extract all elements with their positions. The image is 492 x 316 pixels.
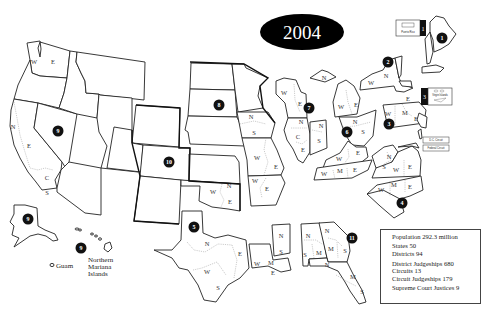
district-label: E bbox=[271, 269, 275, 276]
district-label: M bbox=[316, 249, 322, 256]
circuit-number: 10 bbox=[166, 159, 172, 165]
year-title-badge: 2004 bbox=[260, 14, 344, 50]
circuit-marker-3: 3 bbox=[384, 119, 395, 130]
state-wyoming bbox=[132, 105, 180, 147]
puerto-rico-label: Puerto Rico bbox=[401, 30, 415, 34]
district-label: M bbox=[337, 167, 343, 174]
district-label: E bbox=[408, 183, 412, 190]
state-wisconsin bbox=[276, 78, 307, 118]
district-label: S bbox=[252, 129, 256, 136]
district-label: W bbox=[336, 155, 343, 162]
district-label: N bbox=[319, 122, 324, 129]
virgin-islands-inset: Virgin Islands 3 bbox=[421, 88, 452, 105]
district-label: E bbox=[274, 163, 278, 170]
circuit-number: 4 bbox=[401, 200, 404, 206]
circuit-number: 11 bbox=[349, 235, 355, 241]
state-missouri bbox=[242, 138, 284, 176]
district-label: E bbox=[356, 149, 360, 156]
district-label: M bbox=[391, 181, 397, 188]
district-label: E bbox=[265, 185, 269, 192]
district-label: E bbox=[353, 166, 357, 173]
state-florida bbox=[309, 258, 366, 304]
circuit-marker-6: 6 bbox=[342, 127, 353, 138]
district-label: S bbox=[45, 189, 49, 196]
district-label: E bbox=[301, 146, 305, 153]
district-label: M bbox=[350, 273, 356, 280]
puerto-rico-circuit-number: 1 bbox=[422, 26, 425, 32]
circuit-number: 3 bbox=[388, 121, 391, 127]
circuit-marker-8: 8 bbox=[214, 100, 225, 111]
circuit-marker-5: 5 bbox=[189, 222, 200, 233]
stat-districts: Districts 94 bbox=[392, 250, 480, 259]
district-label: N bbox=[325, 261, 330, 268]
state-south-dakota bbox=[188, 89, 237, 117]
puerto-rico-inset: Puerto Rico 1 bbox=[396, 20, 426, 36]
circuit-marker-4: 4 bbox=[397, 198, 408, 209]
district-label: W bbox=[368, 79, 375, 86]
circuit-number: 9 bbox=[57, 128, 60, 134]
district-label: N bbox=[387, 153, 392, 160]
state-texas bbox=[154, 211, 249, 302]
state-michigan-lower bbox=[333, 80, 360, 117]
district-label: N bbox=[279, 232, 284, 239]
svg-text:D.C. Circuit: D.C. Circuit bbox=[429, 138, 443, 142]
district-label: N bbox=[227, 182, 232, 189]
district-label: S bbox=[360, 288, 364, 295]
guam-shape bbox=[50, 263, 54, 266]
district-label: W bbox=[385, 110, 392, 117]
district-label: E bbox=[228, 198, 232, 205]
district-label: W bbox=[338, 103, 345, 110]
district-label: E bbox=[414, 115, 418, 122]
district-label: M bbox=[328, 245, 334, 252]
district-label: S bbox=[382, 163, 386, 170]
district-label: S bbox=[317, 137, 321, 144]
district-label: N bbox=[11, 123, 16, 130]
district-label: N bbox=[353, 118, 358, 125]
district-label: E bbox=[51, 58, 55, 65]
circuit-number: 7 bbox=[308, 105, 311, 111]
district-label: E bbox=[406, 95, 410, 102]
district-label: W bbox=[281, 89, 288, 96]
circuit-number: 5 bbox=[193, 224, 196, 230]
district-label: W bbox=[252, 177, 259, 184]
district-label: N bbox=[205, 240, 210, 247]
district-label: N bbox=[299, 118, 304, 125]
stat-supreme-court-justices: Supreme Court Justices 9 bbox=[392, 284, 480, 293]
district-label: M bbox=[402, 109, 408, 116]
state-alaska bbox=[10, 205, 58, 247]
state-arizona bbox=[57, 162, 101, 215]
federal-circuit-box: Federal Circuit bbox=[423, 145, 449, 151]
state-kansas bbox=[189, 154, 240, 184]
district-label: N bbox=[306, 232, 311, 239]
district-label: W bbox=[31, 58, 38, 65]
stat-population: Population 292.3 million bbox=[392, 233, 480, 242]
circuit-marker-9: 9 bbox=[53, 126, 64, 137]
circuit-marker-11: 11 bbox=[347, 233, 358, 244]
dc-circuit-box: D.C. Circuit bbox=[423, 137, 449, 143]
district-label: E bbox=[27, 142, 31, 149]
state-new-mexico bbox=[134, 176, 181, 224]
district-label: S bbox=[216, 284, 220, 291]
district-label: E bbox=[238, 250, 242, 257]
state-north-dakota bbox=[190, 63, 235, 90]
circuit-marker-2: 2 bbox=[383, 57, 394, 68]
district-label: W bbox=[210, 188, 217, 195]
year-title: 2004 bbox=[283, 22, 322, 43]
district-label: W bbox=[204, 268, 211, 275]
state-montana bbox=[76, 52, 145, 100]
circuit-number: 9 bbox=[27, 216, 30, 222]
svg-text:Federal Circuit: Federal Circuit bbox=[428, 146, 445, 150]
guam-label: Guam bbox=[56, 262, 74, 270]
district-label: N bbox=[325, 227, 330, 234]
district-label: W bbox=[321, 170, 328, 177]
first-circuit-states bbox=[422, 16, 456, 73]
eleventh-circuit-states bbox=[301, 222, 366, 304]
district-label: W bbox=[378, 186, 385, 193]
district-label: N bbox=[249, 113, 254, 120]
fifth-circuit-states bbox=[154, 211, 291, 302]
circuit-number: 2 bbox=[387, 59, 390, 65]
state-massachusetts bbox=[422, 65, 444, 73]
statistics-box: Population 292.3 million States 50 Distr… bbox=[380, 229, 481, 304]
district-label: S bbox=[343, 247, 347, 254]
circuit-marker-1: 1 bbox=[437, 33, 448, 44]
